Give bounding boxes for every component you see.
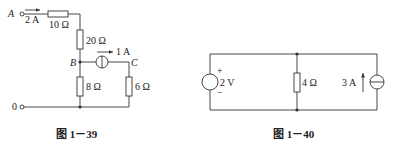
source-current-label: 1 A <box>116 46 131 57</box>
node-bottom <box>78 105 81 108</box>
figure-caption: 图 1－40 <box>273 128 315 140</box>
resistor-4-label: 4 Ω <box>302 77 317 88</box>
node-c-label: C <box>131 57 138 68</box>
terminal-0 <box>20 105 24 109</box>
resistor-8 <box>77 77 83 96</box>
circuit-figures: A 2 A 10 Ω 20 Ω B 1 A C 8 Ω 6 Ω <box>0 0 394 150</box>
terminal-a <box>20 12 24 16</box>
current-source-label: 3 A <box>342 77 357 88</box>
figure-1-40: + − 2 V 4 Ω 3 A 图 1－40 <box>202 52 384 140</box>
terminal-a-label: A <box>7 8 15 19</box>
figure-caption: 图 1－39 <box>56 128 98 140</box>
node-top <box>295 52 298 55</box>
terminal-0-label: 0 <box>12 101 17 112</box>
resistor-20-label: 20 Ω <box>86 35 106 46</box>
resistor-4 <box>294 73 300 92</box>
resistor-10 <box>48 11 68 17</box>
voltage-label: 2 V <box>220 77 235 88</box>
node-b-label: B <box>70 57 76 68</box>
resistor-10-label: 10 Ω <box>49 19 69 30</box>
plus-label: + <box>217 65 223 76</box>
voltage-source-icon <box>202 74 218 90</box>
resistor-20 <box>77 30 83 49</box>
resistor-8-label: 8 Ω <box>86 81 101 92</box>
figure-1-39: A 2 A 10 Ω 20 Ω B 1 A C 8 Ω 6 Ω <box>7 8 150 140</box>
resistor-6 <box>126 77 132 96</box>
minus-label: − <box>217 87 223 98</box>
node-bottom <box>295 108 298 111</box>
current-label: 2 A <box>25 14 40 25</box>
resistor-6-label: 6 Ω <box>135 81 150 92</box>
